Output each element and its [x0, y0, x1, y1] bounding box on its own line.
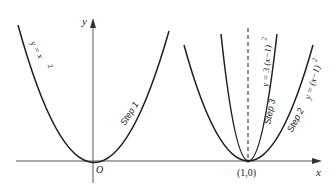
y-axis: y: [81, 15, 96, 183]
transformation-diagram: x y O y = x 2 Step 1 (1,0) y = 3 (x−1) 2…: [0, 0, 336, 187]
parabola-base-equation-label: y = x 2: [28, 37, 55, 72]
svg-text:Step 1: Step 1: [118, 100, 140, 127]
svg-text:2: 2: [260, 36, 268, 41]
origin-label: O: [96, 164, 103, 175]
vertex-point: [246, 159, 249, 162]
svg-text:2: 2: [311, 57, 320, 63]
x-axis-arrow-icon: [312, 158, 322, 164]
y-axis-label: y: [81, 15, 87, 27]
vertex-point-label: (1,0): [237, 167, 256, 179]
svg-text:y = x: y = x: [28, 38, 46, 60]
x-axis-label: x: [315, 166, 321, 178]
svg-text:2: 2: [46, 63, 55, 70]
svg-text:Step 2: Step 2: [285, 106, 306, 134]
step-3-label: Step 3: [262, 98, 277, 126]
y-axis-arrow-icon: [90, 18, 96, 28]
svg-text:Step 3: Step 3: [262, 98, 277, 126]
step-1-label: Step 1: [118, 100, 140, 127]
x-axis: x: [16, 158, 322, 178]
step-2-label: Step 2: [285, 106, 306, 134]
